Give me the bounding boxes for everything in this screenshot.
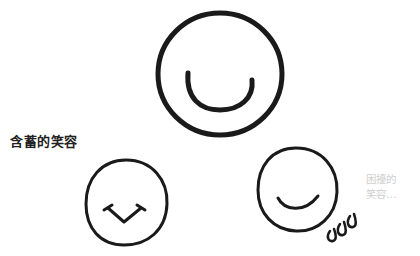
sweat-drop-1 bbox=[328, 229, 336, 241]
troubled-smile-label-line2: 笑容… bbox=[366, 187, 397, 202]
big-smile-face bbox=[158, 13, 282, 135]
troubled-smile-face bbox=[258, 148, 356, 241]
shy-face-outline bbox=[86, 160, 167, 245]
smile-illustration bbox=[0, 0, 420, 256]
shy-smile-label: 含蓄的笑容 bbox=[10, 131, 78, 150]
big-face-outline bbox=[158, 13, 282, 135]
sweat-drop-2 bbox=[338, 222, 346, 235]
troubled-face-outline bbox=[258, 148, 337, 231]
sweat-drop-3 bbox=[348, 214, 356, 227]
troubled-smile-label-line1: 困擾的 bbox=[366, 172, 397, 187]
shy-face-mouth bbox=[108, 208, 141, 222]
troubled-smile-label: 困擾的 笑容… bbox=[366, 172, 397, 202]
shy-smile-face bbox=[86, 160, 167, 245]
troubled-face-mouth bbox=[278, 196, 318, 208]
big-face-mouth bbox=[188, 73, 252, 110]
